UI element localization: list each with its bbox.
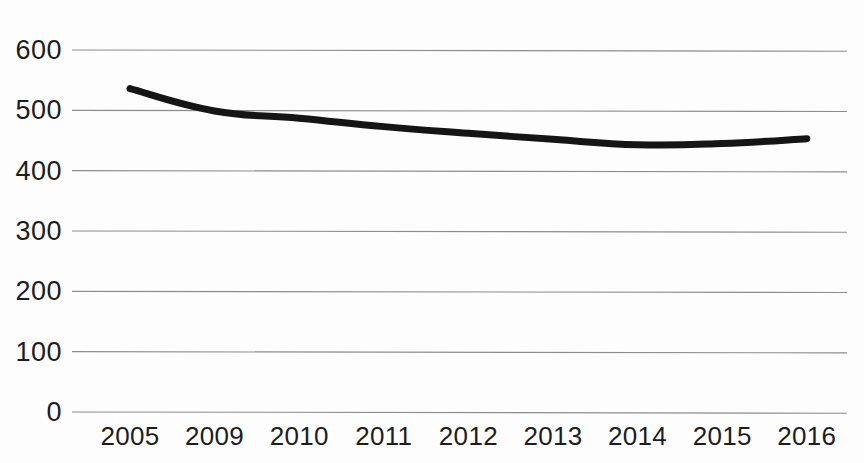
gridline-500 — [72, 110, 847, 111]
y-tick-label-0: 0 — [0, 399, 62, 426]
gridline-200 — [72, 291, 847, 292]
gridline-400 — [72, 171, 847, 172]
y-tick-label-500: 500 — [0, 97, 62, 124]
y-tick-label-400: 400 — [0, 158, 62, 185]
gridline-600 — [72, 50, 847, 51]
x-tick-label-2010: 2010 — [254, 423, 344, 449]
plot-area — [0, 0, 864, 463]
x-tick-label-2005: 2005 — [85, 423, 175, 449]
x-tick-label-2012: 2012 — [423, 423, 513, 449]
x-tick-label-2016: 2016 — [762, 423, 852, 449]
series-line — [130, 89, 807, 146]
gridline-300 — [72, 231, 847, 232]
x-tick-label-2014: 2014 — [593, 423, 683, 449]
x-tick-label-2009: 2009 — [170, 423, 260, 449]
y-tick-label-300: 300 — [0, 218, 62, 245]
line-chart: 0100200300400500600 20052009201020112012… — [0, 0, 864, 463]
y-tick-label-100: 100 — [0, 339, 62, 366]
gridline-0 — [72, 412, 847, 413]
x-tick-label-2011: 2011 — [339, 423, 429, 449]
x-tick-label-2015: 2015 — [677, 423, 767, 449]
data-series — [130, 89, 807, 146]
y-tick-label-600: 600 — [0, 37, 62, 64]
x-tick-label-2013: 2013 — [508, 423, 598, 449]
y-tick-label-200: 200 — [0, 278, 62, 305]
gridline-100 — [72, 352, 847, 353]
